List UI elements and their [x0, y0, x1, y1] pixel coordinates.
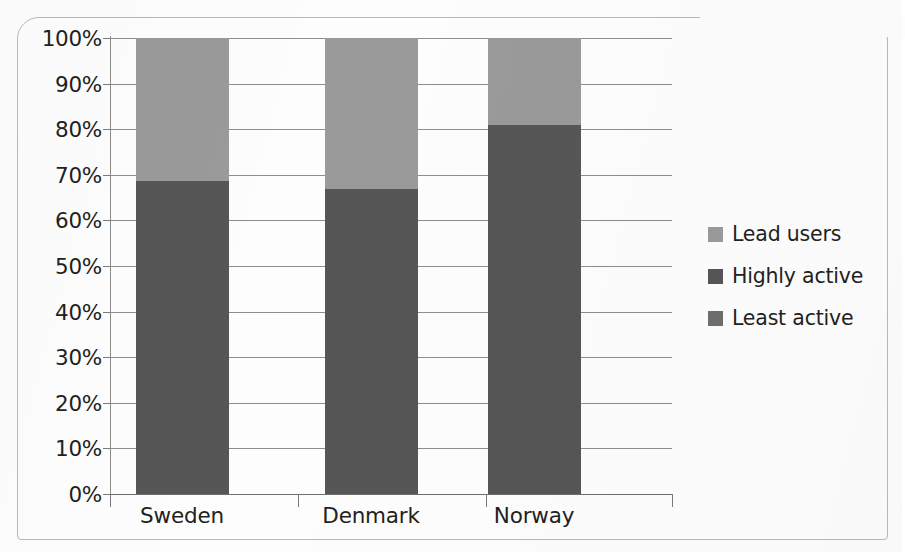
- y-axis-tick-label: 50%: [10, 254, 102, 279]
- plot-area: [110, 38, 672, 494]
- legend-item-lead-users[interactable]: Lead users: [708, 213, 888, 255]
- y-axis-tick-label: 0%: [10, 482, 102, 507]
- bar-segment-least-active[interactable]: [488, 125, 581, 494]
- y-axis-tick-label: 90%: [10, 71, 102, 96]
- legend-swatch-icon: [708, 269, 723, 284]
- legend-item-least-active[interactable]: Least active: [708, 297, 888, 339]
- y-axis-tick-label: 60%: [10, 208, 102, 233]
- y-axis-labels: 100% 90% 80% 70% 60% 50% 40% 30% 20% 10%…: [6, 38, 102, 494]
- legend-item-label: Least active: [732, 306, 853, 330]
- bar-norway[interactable]: [488, 38, 581, 494]
- x-axis-tick: [672, 494, 673, 507]
- legend-swatch-icon: [708, 227, 723, 242]
- y-axis-tick-label: 70%: [10, 162, 102, 187]
- legend-item-label: Highly active: [732, 264, 863, 288]
- legend-item-highly-active[interactable]: Highly active: [708, 255, 888, 297]
- x-axis-baseline: [110, 494, 672, 495]
- chart-legend: Lead users Highly active Least active: [708, 213, 888, 339]
- x-axis-label-denmark: Denmark: [281, 503, 461, 528]
- bar-segment-least-active[interactable]: [136, 181, 229, 494]
- y-axis-tick-label: 40%: [10, 299, 102, 324]
- y-axis-tick-label: 20%: [10, 390, 102, 415]
- legend-item-label: Lead users: [732, 222, 841, 246]
- bar-segment-lead-users[interactable]: [325, 38, 418, 189]
- bar-sweden[interactable]: [136, 38, 229, 494]
- y-axis-tick-label: 100%: [10, 26, 102, 51]
- y-axis-tick-label: 30%: [10, 345, 102, 370]
- bar-segment-least-active[interactable]: [325, 189, 418, 494]
- x-axis-label-sweden: Sweden: [92, 503, 272, 528]
- y-axis-tick-label: 10%: [10, 436, 102, 461]
- legend-swatch-icon: [708, 311, 723, 326]
- y-axis-tick-label: 80%: [10, 117, 102, 142]
- bar-segment-lead-users[interactable]: [488, 38, 581, 125]
- bar-denmark[interactable]: [325, 38, 418, 494]
- x-axis-label-norway: Norway: [444, 503, 624, 528]
- bar-segment-lead-users[interactable]: [136, 38, 229, 181]
